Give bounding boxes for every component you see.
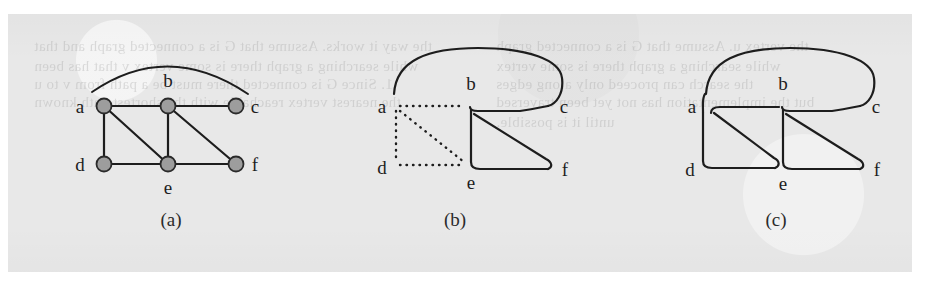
path-a-over-top-to-c bbox=[706, 48, 874, 106]
caption-panel-a: (a) bbox=[141, 209, 201, 231]
path-b-down-to-f bbox=[474, 114, 551, 169]
vertex-label-b: b bbox=[163, 70, 173, 91]
path-b-down-to-f bbox=[786, 114, 863, 169]
vertex-label-e: e bbox=[467, 172, 475, 193]
vertex-label-d: d bbox=[377, 157, 387, 178]
panel-c-graph: a b c d e f bbox=[628, 14, 912, 224]
caption-panel-c: (c) bbox=[746, 209, 806, 231]
vertex-f bbox=[229, 157, 244, 172]
scanned-page-canvas: the way it works. Assume that G is a con… bbox=[8, 14, 912, 272]
vertex-label-e: e bbox=[779, 173, 787, 194]
vertex-label-c: c bbox=[560, 96, 568, 117]
caption-panel-b: (b) bbox=[425, 209, 485, 231]
vertex-label-e: e bbox=[164, 177, 172, 198]
vertex-c bbox=[229, 99, 244, 114]
vertex-label-c: c bbox=[872, 96, 880, 117]
vertex-label-d: d bbox=[685, 159, 695, 180]
path-c-back-to-b bbox=[470, 106, 548, 111]
dotted-edge-a-e bbox=[400, 111, 464, 162]
panel-b-graph: a b c d e f bbox=[288, 14, 618, 224]
vertex-label-a: a bbox=[688, 96, 697, 117]
vertex-d bbox=[97, 157, 112, 172]
path-a-down-to-e bbox=[714, 113, 779, 168]
vertex-label-f: f bbox=[874, 159, 881, 180]
edge-a-e bbox=[104, 106, 168, 164]
panel-a-graph: a b c d e f bbox=[8, 14, 308, 224]
vertex-label-a: a bbox=[378, 96, 387, 117]
panel-b-vertex-labels: a b c d e f bbox=[377, 73, 569, 193]
vertex-label-a: a bbox=[76, 96, 85, 117]
panel-b-dotted-edges bbox=[396, 106, 464, 165]
vertex-label-f: f bbox=[562, 159, 569, 180]
vertex-e bbox=[161, 157, 176, 172]
path-c-back-to-b bbox=[782, 106, 860, 111]
vertex-a bbox=[97, 99, 112, 114]
vertex-label-c: c bbox=[251, 96, 259, 117]
panel-b-solid-path bbox=[394, 48, 562, 169]
vertex-label-f: f bbox=[252, 154, 259, 175]
vertex-label-b: b bbox=[778, 73, 788, 94]
panel-a-vertices bbox=[97, 99, 244, 172]
panel-c-solid-path bbox=[703, 48, 874, 169]
path-a-over-top-to-c bbox=[394, 48, 562, 106]
edge-b-f bbox=[168, 106, 236, 164]
vertex-label-b: b bbox=[466, 73, 476, 94]
vertex-b bbox=[161, 99, 176, 114]
vertex-label-d: d bbox=[75, 154, 85, 175]
path-d-up-to-a bbox=[703, 94, 705, 112]
path-e-left-to-d bbox=[703, 112, 775, 168]
path-b-left-to-a bbox=[711, 107, 779, 113]
